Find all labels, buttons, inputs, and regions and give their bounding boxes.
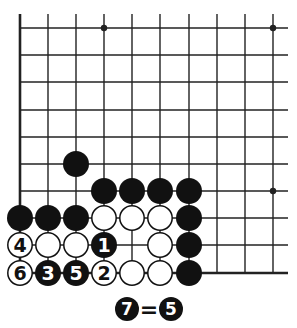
move-caption: 7 = 5 <box>0 296 297 324</box>
move-number-label: 1 <box>97 234 110 256</box>
white-stone <box>120 206 144 230</box>
black-stone <box>176 260 202 286</box>
caption-right-label: 5 <box>165 299 177 319</box>
star-point-icon <box>101 25 107 31</box>
black-stone <box>35 205 61 231</box>
white-stone <box>120 261 144 285</box>
black-stone <box>176 205 202 231</box>
black-stone <box>7 205 33 231</box>
move-number-label: 2 <box>97 262 110 284</box>
star-point-icon <box>270 25 276 31</box>
star-point-icon <box>270 188 276 194</box>
white-stone <box>92 206 116 230</box>
caption-left-label: 7 <box>121 299 133 319</box>
white-stone <box>148 206 172 230</box>
move-number-label: 5 <box>69 262 82 284</box>
black-stone <box>119 178 145 204</box>
white-stone <box>148 233 172 257</box>
go-board: 416352 <box>0 0 297 296</box>
white-stone <box>36 233 60 257</box>
move-number-label: 4 <box>13 234 26 256</box>
black-stone <box>176 178 202 204</box>
white-stone <box>64 233 88 257</box>
caption-equals: = <box>140 297 158 322</box>
black-stone <box>147 178 173 204</box>
caption-stone-right: 5 <box>159 297 183 321</box>
move-number-label: 6 <box>13 262 26 284</box>
black-stone <box>176 232 202 258</box>
caption-stone-left: 7 <box>115 297 139 321</box>
black-stone <box>63 205 89 231</box>
black-stone <box>91 178 117 204</box>
white-stone <box>148 261 172 285</box>
black-stone <box>63 151 89 177</box>
move-number-label: 3 <box>41 262 54 284</box>
